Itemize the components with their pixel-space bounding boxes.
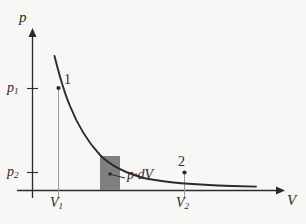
y-tick-label-p2-base: p xyxy=(7,164,14,179)
y-tick-label-p2: p2 xyxy=(7,165,19,180)
x-tick-label-v1-sub: 1 xyxy=(59,201,64,211)
state-point-2-marker xyxy=(182,170,186,174)
x-tick-label-v2: V2 xyxy=(176,196,189,211)
state-point-1-label: 1 xyxy=(64,73,71,87)
x-tick-label-v2-sub: 2 xyxy=(185,201,190,211)
pv-diagram-figure: p V p1 p2 V1 V2 1 2 p·dV xyxy=(0,0,306,224)
work-strip-dot xyxy=(108,172,112,176)
expansion-curve xyxy=(55,56,257,187)
x-axis-label: V xyxy=(287,193,296,208)
x-tick-label-v1-base: V xyxy=(50,195,59,210)
work-element-label: p·dV xyxy=(127,168,153,182)
y-tick-label-p2-sub: 2 xyxy=(14,170,19,180)
pv-diagram-canvas xyxy=(0,0,306,224)
state-point-1-marker xyxy=(56,86,60,90)
y-axis-label: p xyxy=(19,10,27,25)
x-tick-label-v2-base: V xyxy=(176,195,185,210)
state-point-2-label: 2 xyxy=(178,155,185,169)
y-tick-label-p1-sub: 1 xyxy=(14,86,19,96)
y-tick-label-p1: p1 xyxy=(7,81,19,96)
y-tick-label-p1-base: p xyxy=(7,80,14,95)
x-tick-label-v1: V1 xyxy=(50,196,63,211)
